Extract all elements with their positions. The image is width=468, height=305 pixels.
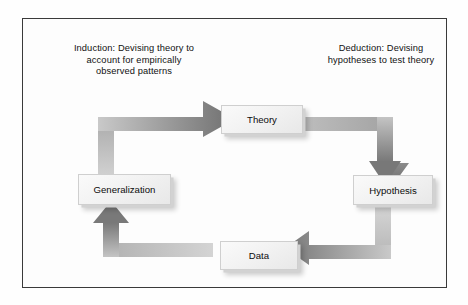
node-generalization[interactable]: Generalization: [78, 174, 171, 205]
node-data-label: Data: [249, 250, 269, 261]
node-hypothesis-label: Hypothesis: [369, 185, 416, 196]
node-generalization-label: Generalization: [94, 184, 156, 195]
arrow-data-to-generalization: [81, 199, 231, 279]
diagram-canvas: Induction: Devising theory to account fo…: [0, 0, 468, 305]
caption-deduction: Deduction: Devising hypotheses to test t…: [315, 43, 447, 66]
node-theory[interactable]: Theory: [221, 105, 303, 134]
diagram-frame: Induction: Devising theory to account fo…: [22, 18, 447, 288]
node-hypothesis[interactable]: Hypothesis: [353, 175, 433, 205]
node-data[interactable]: Data: [220, 241, 298, 270]
caption-induction: Induction: Devising theory to account fo…: [69, 43, 199, 78]
arrow-theory-to-hypothesis: [281, 87, 431, 187]
node-theory-label: Theory: [247, 114, 277, 125]
